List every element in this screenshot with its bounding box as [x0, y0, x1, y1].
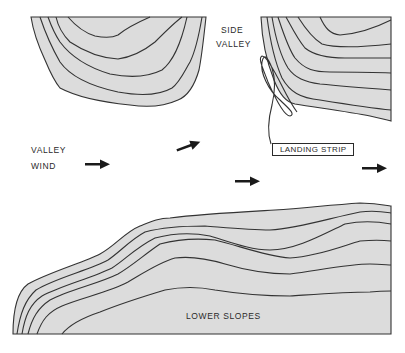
landing-strip-box: LANDING STRIP	[272, 143, 354, 156]
valley-wind-label-line2: WIND	[31, 161, 56, 171]
upper-left-ridge	[31, 17, 206, 106]
wind-arrow-icon	[85, 160, 110, 170]
lower-slopes-label: LOWER SLOPES	[186, 311, 261, 321]
wind-arrow-icon	[175, 137, 202, 154]
upper-right-ridge	[261, 17, 391, 121]
wind-arrow-icon	[362, 164, 387, 174]
wind-arrow-icon	[235, 177, 260, 187]
side-valley-label-line1: SIDE	[221, 25, 243, 35]
terrain-diagram	[0, 0, 405, 353]
landing-strip-label: LANDING STRIP	[280, 145, 347, 154]
valley-wind-label-line1: VALLEY	[31, 145, 66, 155]
side-valley-label-line2: VALLEY	[216, 39, 251, 49]
